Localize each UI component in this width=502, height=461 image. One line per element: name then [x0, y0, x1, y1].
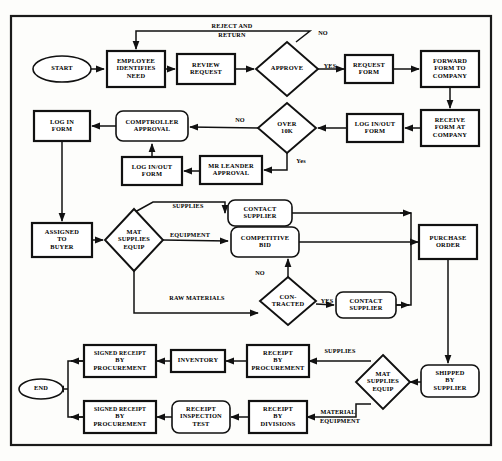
edge-label-reject-return: REJECT AND — [212, 22, 253, 29]
node-loginout1[interactable]: LOG IN/OUTFORM — [347, 114, 403, 142]
node-label-leander: MR LEANDER — [208, 162, 254, 169]
node-label-receiptdiv: BY — [273, 412, 282, 419]
node-label-receiptproc: PROCUREMENT — [252, 364, 306, 371]
node-inventory[interactable]: INVENTORY — [171, 350, 225, 372]
node-label-loginout1: LOG IN/OUT — [355, 120, 396, 127]
edge-label-rawmaterials: RAW MATERIALS — [169, 294, 225, 301]
node-label-contactsup1: SUPPLIER — [243, 212, 276, 219]
node-label-employee: NEED — [127, 72, 146, 79]
node-label-review: REQUEST — [190, 68, 222, 75]
node-signed1[interactable]: SIGNED RECEIPTBYPROCUREMENT — [84, 345, 156, 377]
node-contactsup2[interactable]: CONTACTSUPPLIER — [336, 292, 396, 318]
node-label-review: REVIEW — [192, 61, 220, 68]
node-over10k[interactable]: OVER10K — [258, 103, 316, 153]
node-label-shipped: BY — [445, 376, 454, 383]
node-label-approve: APPROVE — [271, 64, 303, 71]
node-label-comptroller: COMPTROLLER — [126, 118, 179, 125]
node-contactsup1[interactable]: CONTACTSUPPLIER — [228, 200, 292, 226]
node-signed2[interactable]: SIGNED RECEIPTBYPROCUREMENT — [84, 401, 156, 433]
node-compbid[interactable]: COMPETITIVEBID — [231, 227, 299, 257]
node-label-contactsup2: SUPPLIER — [349, 304, 382, 311]
node-label-receiptdiv: RECEIPT — [263, 405, 293, 412]
node-matsup2[interactable]: MATSUPPLIESEQUIP — [356, 355, 410, 409]
node-employee[interactable]: EMPLOYEEIDENTIFIESNEED — [107, 51, 165, 87]
edge-label-approve-no: NO — [318, 29, 328, 36]
node-label-forwardform: COMPANY — [433, 72, 467, 79]
edge-over10k-comptroller — [190, 127, 258, 128]
procurement-flowchart: STARTEMPLOYEEIDENTIFIESNEEDREVIEWREQUEST… — [0, 0, 502, 461]
node-label-loginform: FORM — [52, 125, 72, 132]
node-label-loginout2: FORM — [142, 170, 162, 177]
node-purchase[interactable]: PURCHASEORDER — [419, 225, 477, 259]
edge-label-reject-return2: RETURN — [218, 31, 246, 38]
edge-label-contracted-yes: YES — [321, 297, 334, 304]
node-receiveform[interactable]: RECEIVEFORM ATCOMPANY — [421, 110, 479, 146]
node-label-over10k: OVER — [277, 120, 296, 127]
edge-over10k-leander — [264, 153, 287, 170]
edge-label-contracted-no: NO — [255, 269, 265, 276]
node-forwardform[interactable]: FORWARDFORM TOCOMPANY — [421, 51, 479, 87]
edge-signed2-end — [68, 389, 84, 417]
node-label-contracted: TRACTED — [272, 300, 305, 307]
edge-contactsup1-purchase — [292, 213, 411, 242]
node-receiptproc[interactable]: RECEIPTBYPROCUREMENT — [247, 345, 309, 377]
node-label-employee: EMPLOYEE — [117, 57, 155, 64]
edge-label-equipment-1: EQUIPMENT — [170, 231, 211, 238]
node-leander[interactable]: MR LEANDERAPPROVAL — [200, 156, 262, 184]
node-loginout2[interactable]: LOG IN/OUTFORM — [122, 157, 182, 185]
node-label-signed1: BY — [115, 356, 124, 363]
node-start[interactable]: START — [33, 56, 91, 82]
node-assigned[interactable]: ASSIGNEDTOBUYER — [32, 223, 92, 257]
node-label-requestform: FORM — [359, 68, 379, 75]
node-label-over10k: 10K — [281, 127, 293, 134]
node-label-purchase: ORDER — [436, 241, 460, 248]
node-loginform[interactable]: LOG INFORM — [34, 111, 90, 141]
node-label-matsup1: SUPPLIES — [118, 235, 150, 242]
node-label-receiptproc: RECEIPT — [263, 349, 293, 356]
node-label-inventory: INVENTORY — [178, 356, 219, 363]
node-label-compbid: BID — [259, 241, 271, 248]
node-matsup1[interactable]: MATSUPPLIESEQUIP — [105, 209, 163, 271]
node-shipped[interactable]: SHIPPEDBYSUPPLIER — [421, 365, 479, 397]
node-label-assigned: ASSIGNED — [45, 228, 79, 235]
flowchart-page: STARTEMPLOYEEIDENTIFIESNEEDREVIEWREQUEST… — [0, 0, 502, 461]
node-review[interactable]: REVIEWREQUEST — [177, 54, 235, 84]
node-label-shipped: SHIPPED — [435, 369, 464, 376]
node-label-purchase: PURCHASE — [430, 234, 467, 241]
node-label-signed2: BY — [115, 412, 124, 419]
node-comptroller[interactable]: COMPTROLLERAPPROVAL — [116, 111, 188, 141]
node-label-receiveform: RECEIVE — [435, 116, 466, 123]
node-requestform[interactable]: REQUESTFORM — [345, 55, 393, 83]
node-approve[interactable]: APPROVE — [256, 42, 318, 96]
edge-label-material-2: MATERIAL — [320, 408, 355, 415]
edge-contactsup2-purchase — [396, 242, 411, 305]
node-contracted[interactable]: CON-TRACTED — [260, 277, 316, 325]
node-label-assigned: BUYER — [50, 243, 74, 250]
node-label-forwardform: FORWARD — [433, 57, 467, 64]
node-label-inspection: INSPECTION — [180, 412, 222, 419]
node-label-receiptdiv: DIVISIONS — [260, 420, 295, 427]
edge-label-supplies-1: SUPPLIES — [172, 202, 204, 209]
node-label-loginform: LOG IN — [50, 118, 74, 125]
node-label-inspection: RECEIPT — [186, 405, 216, 412]
node-label-matsup1: EQUIP — [123, 243, 144, 250]
edge-equipment — [163, 240, 228, 241]
node-label-matsup2: SUPPLIES — [367, 377, 399, 384]
edge-raw-materials — [134, 271, 258, 313]
node-label-signed2: SIGNED RECEIPT — [94, 406, 146, 412]
node-receiptdiv[interactable]: RECEIPTBYDIVISIONS — [249, 401, 307, 433]
node-label-receiveform: COMPANY — [433, 131, 467, 138]
node-inspection[interactable]: RECEIPTINSPECTIONTEST — [172, 401, 230, 433]
node-label-matsup1: MAT — [126, 228, 142, 235]
node-label-start: START — [51, 64, 73, 71]
node-label-contracted: CON- — [279, 293, 296, 300]
node-label-receiveform: FORM AT — [435, 123, 466, 130]
node-label-receiptproc: BY — [273, 356, 282, 363]
node-label-forwardform: FORM TO — [434, 64, 466, 71]
edge-label-over10k-yes: Yes — [296, 157, 306, 164]
edge-label-supplies-2: SUPPLIES — [324, 347, 356, 354]
node-label-signed1: PROCUREMENT — [94, 364, 148, 371]
node-end[interactable]: END — [19, 379, 63, 399]
node-layer: STARTEMPLOYEEIDENTIFIESNEEDREVIEWREQUEST… — [19, 42, 479, 433]
node-label-contactsup2: CONTACT — [350, 297, 383, 304]
